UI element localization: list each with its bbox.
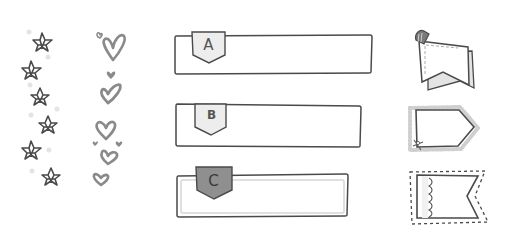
clip-note-icon (416, 30, 474, 90)
flag-icon (410, 171, 488, 224)
banners (0, 0, 507, 235)
lace-tag-icon (410, 107, 478, 150)
